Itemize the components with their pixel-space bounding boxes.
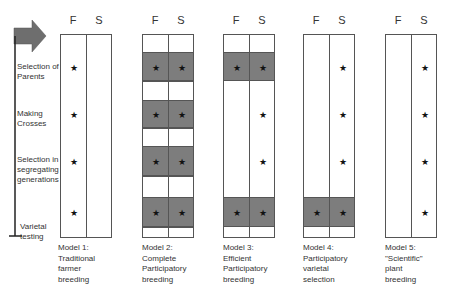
star-icon: ★ (258, 64, 268, 73)
model-label-line: Participatory (223, 264, 267, 275)
star-icon: ★ (151, 158, 161, 167)
model-label-line: Model 2: (142, 243, 186, 254)
star-icon: ★ (258, 158, 268, 167)
model-column-1: ★★★★ (60, 34, 112, 238)
model-label-line: breeding (223, 275, 267, 286)
star-icon: ★ (151, 209, 161, 218)
model-label-line: Efficient (223, 254, 267, 265)
star-icon: ★ (258, 209, 268, 218)
model-label-line: Model 1: (58, 243, 95, 254)
model-label-5: Model 5:"Scientific"plantbreeding (385, 243, 423, 285)
column-header-farmer: F (145, 14, 165, 26)
star-icon: ★ (177, 64, 187, 73)
model-label-line: selection (303, 275, 347, 286)
model-label-line: Traditional (58, 254, 95, 265)
star-icon: ★ (69, 64, 79, 73)
stage-label-varietal-testing: Varietal testing (20, 222, 47, 242)
model-label-line: Participatory (142, 264, 186, 275)
model-label-line: Complete (142, 254, 186, 265)
model-label-line: Model 3: (223, 243, 267, 254)
model-label-line: breeding (58, 275, 95, 286)
star-icon: ★ (312, 209, 322, 218)
star-icon: ★ (420, 209, 430, 218)
model-label-line: plant (385, 264, 423, 275)
model-label-3: Model 3:EfficientParticipatorybreeding (223, 243, 267, 285)
star-icon: ★ (420, 64, 430, 73)
star-icon: ★ (69, 209, 79, 218)
model-label-2: Model 2:CompleteParticipatorybreeding (142, 243, 186, 285)
model-column-5: ★★★★ (385, 34, 437, 238)
model-label-1: Model 1:Traditionalfarmerbreeding (58, 243, 95, 285)
column-header-farmer: F (306, 14, 326, 26)
column-divider (86, 35, 87, 237)
stage-label-selection-segregating: Selection in segregating generations (17, 155, 59, 185)
column-header-farmer: F (226, 14, 246, 26)
star-icon: ★ (338, 64, 348, 73)
column-header-farmer: F (388, 14, 408, 26)
model-label-line: breeding (385, 275, 423, 286)
star-icon: ★ (151, 64, 161, 73)
star-icon: ★ (232, 64, 242, 73)
model-label-4: Model 4:Participatoryvarietalselection (303, 243, 347, 285)
model-label-line: breeding (142, 275, 186, 286)
model-label-line: Participatory (303, 254, 347, 265)
star-icon: ★ (420, 111, 430, 120)
star-icon: ★ (338, 209, 348, 218)
model-label-line: Model 4: (303, 243, 347, 254)
column-header-scientist: S (332, 14, 352, 26)
star-icon: ★ (420, 158, 430, 167)
star-icon: ★ (69, 158, 79, 167)
column-divider (249, 35, 250, 237)
column-divider (168, 35, 169, 237)
model-label-line: varietal (303, 264, 347, 275)
star-icon: ★ (177, 158, 187, 167)
column-header-scientist: S (252, 14, 272, 26)
column-header-scientist: S (89, 14, 109, 26)
model-label-line: Model 5: (385, 243, 423, 254)
stage-label-making-crosses: Making Crosses (17, 109, 46, 129)
model-column-3: ★★★★★★ (223, 34, 275, 238)
star-icon: ★ (151, 111, 161, 120)
model-column-2: ★★★★★★★★ (142, 34, 194, 238)
star-icon: ★ (258, 111, 268, 120)
star-icon: ★ (69, 111, 79, 120)
column-header-farmer: F (63, 14, 83, 26)
model-column-4: ★★★★★ (303, 34, 355, 238)
model-label-line: farmer (58, 264, 95, 275)
column-header-scientist: S (171, 14, 191, 26)
model-label-line: "Scientific" (385, 254, 423, 265)
stage-label-selection-of-parents: Selection of Parents (17, 62, 59, 82)
star-icon: ★ (177, 209, 187, 218)
column-header-scientist: S (414, 14, 434, 26)
star-icon: ★ (177, 111, 187, 120)
column-divider (329, 35, 330, 237)
column-divider (411, 35, 412, 237)
star-icon: ★ (232, 209, 242, 218)
star-icon: ★ (338, 111, 348, 120)
star-icon: ★ (338, 158, 348, 167)
